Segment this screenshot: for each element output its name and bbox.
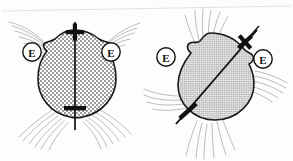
field-label-left-upper-right: E	[102, 43, 120, 61]
field-label-text: E	[259, 54, 266, 66]
figure-root: E E	[0, 0, 293, 161]
field-label-text: E	[162, 52, 169, 64]
field-label-text: E	[107, 47, 114, 59]
field-label-text: E	[28, 47, 35, 59]
negative-pole-marker-left	[64, 106, 86, 110]
cell-polarity-diagram: E E	[0, 0, 293, 161]
field-label-right-right: E	[254, 50, 272, 68]
field-label-left-upper-left: E	[23, 43, 41, 61]
cell-body-left	[38, 30, 116, 118]
field-label-right-left: E	[157, 48, 175, 66]
